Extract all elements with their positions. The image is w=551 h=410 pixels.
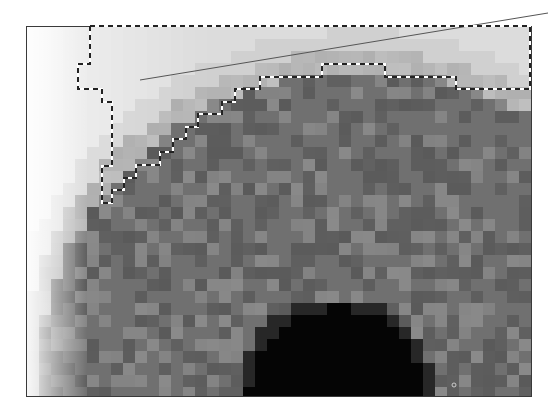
image-frame [26, 26, 532, 397]
pixelated-iris-image [27, 27, 531, 396]
